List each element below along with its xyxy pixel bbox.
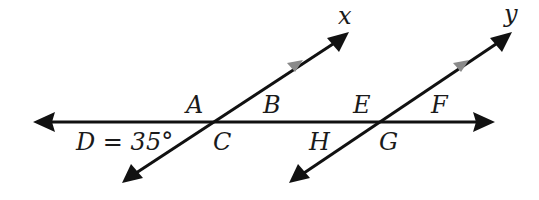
angle-label-f: F	[430, 91, 449, 119]
angle-label-e: E	[352, 91, 371, 119]
arrowhead-x-bottom-icon	[122, 164, 143, 183]
angle-label-g: G	[379, 128, 398, 156]
line-label-y: y	[503, 0, 518, 28]
line-x	[122, 32, 349, 183]
line-y	[289, 32, 512, 183]
arrowhead-left-icon	[33, 112, 55, 132]
arrowhead-right-icon	[473, 112, 495, 132]
line-label-x: x	[338, 2, 352, 30]
geometry-diagram: x y A B E F C H G D = 35°	[0, 0, 539, 200]
angle-label-b: B	[262, 91, 281, 119]
angle-label-h: H	[308, 128, 331, 156]
angle-label-a: A	[184, 91, 203, 119]
arrowhead-x-top-icon	[327, 32, 349, 52]
arrowhead-y-top-icon	[490, 32, 512, 52]
angle-label-d-value: D = 35°	[75, 128, 173, 156]
arrowhead-y-bottom-icon	[289, 164, 310, 183]
angle-label-c: C	[213, 128, 231, 156]
